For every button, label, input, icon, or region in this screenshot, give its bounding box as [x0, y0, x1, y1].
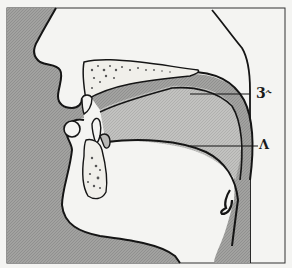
vocal-tract-diagram: 3˞ Λ — [0, 0, 292, 268]
vocal-tract-drawing — [0, 0, 292, 268]
label-r-colored-vowel: 3˞ — [256, 86, 272, 100]
lower-lip — [64, 121, 80, 137]
label-wedge-vowel: Λ — [259, 138, 269, 151]
